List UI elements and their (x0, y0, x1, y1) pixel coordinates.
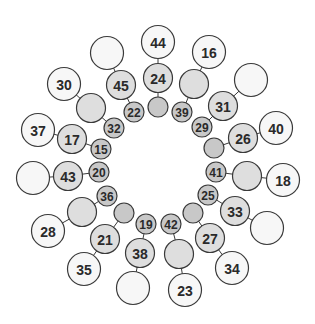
circle-number-label: 43 (60, 169, 76, 185)
outer-circle-node: 40 (260, 112, 293, 145)
outer-circle-node (251, 212, 284, 245)
circle-number-label: 41 (209, 166, 223, 180)
middle-circle-node (77, 94, 106, 123)
circle-shape (165, 240, 194, 269)
puzzle-diagram: 2444391629312640411825332734422319382135… (0, 0, 315, 324)
outer-circle-node: 16 (193, 36, 226, 69)
circle-shape (91, 37, 124, 70)
outer-circle-node: 35 (68, 253, 101, 286)
outer-circle-node (117, 272, 150, 305)
circle-number-label: 15 (94, 143, 108, 157)
circle-shape (114, 203, 134, 223)
outer-circle-node (91, 37, 124, 70)
circle-number-label: 32 (107, 122, 121, 136)
circle-shape (233, 162, 262, 191)
circle-number-label: 33 (227, 204, 243, 220)
circle-number-label: 42 (164, 218, 178, 232)
outer-circle-node: 34 (216, 252, 249, 285)
inner-circle-node (204, 138, 224, 158)
outer-circle-node: 23 (169, 274, 202, 307)
circle-number-label: 29 (195, 121, 209, 135)
inner-circle-node: 32 (104, 118, 124, 138)
radial-circle-diagram: 2444391629312640411825332734422319382135… (0, 0, 315, 324)
middle-circle-node: 33 (221, 197, 250, 226)
inner-circle-node: 20 (89, 162, 109, 182)
circle-number-label: 17 (64, 132, 80, 148)
circle-number-label: 30 (56, 77, 72, 93)
inner-circle-node: 25 (198, 185, 218, 205)
circle-number-label: 39 (175, 106, 189, 120)
circle-number-label: 44 (150, 35, 166, 51)
middle-circle-node (180, 70, 209, 99)
middle-circle-node (233, 162, 262, 191)
circle-number-label: 37 (30, 123, 46, 139)
outer-circle-node: 28 (32, 215, 65, 248)
outer-circle-node: 30 (48, 68, 81, 101)
outer-circle-node: 37 (22, 114, 55, 147)
inner-circle-node: 29 (192, 117, 212, 137)
circle-number-label: 35 (76, 262, 92, 278)
circle-number-label: 20 (92, 166, 106, 180)
circle-shape (17, 162, 50, 195)
middle-circle-node: 17 (58, 125, 87, 154)
circle-number-label: 21 (97, 232, 113, 248)
inner-circle-node: 42 (161, 214, 181, 234)
middle-circle-node: 45 (107, 71, 136, 100)
circle-number-label: 34 (224, 261, 240, 277)
middle-circle-node (165, 240, 194, 269)
inner-circle-node (183, 203, 203, 223)
circle-nodes: 2444391629312640411825332734422319382135… (17, 26, 300, 307)
outer-circle-node (17, 162, 50, 195)
circle-number-label: 22 (127, 106, 141, 120)
middle-circle-node: 31 (209, 92, 238, 121)
circle-number-label: 23 (177, 283, 193, 299)
circle-shape (117, 272, 150, 305)
circle-number-label: 26 (235, 131, 251, 147)
middle-circle-node: 27 (196, 224, 225, 253)
inner-circle-node (114, 203, 134, 223)
outer-circle-node (235, 64, 268, 97)
circle-number-label: 16 (201, 45, 217, 61)
middle-circle-node: 38 (126, 239, 155, 268)
middle-circle-node (68, 198, 97, 227)
middle-circle-node: 24 (144, 64, 173, 93)
circle-number-label: 25 (201, 189, 215, 203)
inner-circle-node (148, 97, 168, 117)
circle-shape (204, 138, 224, 158)
outer-circle-node: 18 (267, 164, 300, 197)
circle-shape (180, 70, 209, 99)
circle-number-label: 24 (150, 71, 166, 87)
inner-circle-node: 36 (97, 186, 117, 206)
middle-circle-node: 43 (54, 162, 83, 191)
circle-number-label: 45 (113, 78, 129, 94)
circle-number-label: 27 (202, 231, 218, 247)
circle-number-label: 18 (275, 173, 291, 189)
circle-shape (148, 97, 168, 117)
circle-number-label: 28 (40, 224, 56, 240)
inner-circle-node: 41 (206, 162, 226, 182)
inner-circle-node: 22 (124, 102, 144, 122)
circle-number-label: 40 (268, 121, 284, 137)
middle-circle-node: 21 (91, 225, 120, 254)
inner-circle-node: 39 (172, 102, 192, 122)
circle-number-label: 38 (132, 246, 148, 262)
outer-circle-node: 44 (142, 26, 175, 59)
inner-circle-node: 19 (136, 214, 156, 234)
circle-number-label: 36 (100, 190, 114, 204)
inner-circle-node: 15 (91, 139, 111, 159)
circle-number-label: 31 (215, 99, 231, 115)
circle-number-label: 19 (139, 218, 153, 232)
circle-shape (235, 64, 268, 97)
circle-shape (251, 212, 284, 245)
middle-circle-node: 26 (229, 124, 258, 153)
circle-shape (68, 198, 97, 227)
circle-shape (183, 203, 203, 223)
circle-shape (77, 94, 106, 123)
